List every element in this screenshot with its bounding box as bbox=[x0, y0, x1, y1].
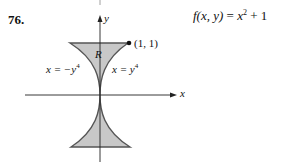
region-figure bbox=[0, 0, 286, 163]
point-marker-icon bbox=[127, 41, 132, 46]
point-label: (1, 1) bbox=[134, 37, 158, 49]
left-curve-text: x = −y bbox=[46, 63, 76, 75]
region-label: R bbox=[95, 48, 102, 60]
y-axis-arrow-icon bbox=[98, 15, 103, 22]
left-curve-label: x = −y4 bbox=[46, 62, 80, 75]
right-curve-exponent: 4 bbox=[135, 62, 139, 70]
right-curve-label: x = y4 bbox=[112, 62, 138, 75]
left-curve-exponent: 4 bbox=[76, 62, 80, 70]
region-lower bbox=[71, 95, 130, 147]
y-axis-label: y bbox=[104, 12, 109, 24]
right-curve-text: x = y bbox=[112, 63, 135, 75]
x-axis-arrow-icon bbox=[170, 93, 177, 98]
x-axis-label: x bbox=[180, 87, 185, 99]
